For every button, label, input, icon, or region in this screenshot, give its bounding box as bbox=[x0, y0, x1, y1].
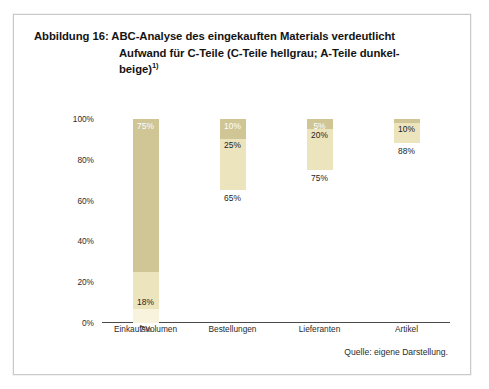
y-axis-tick-label: 80% bbox=[77, 155, 94, 165]
figure-title-line-3: beige)1) bbox=[34, 61, 454, 78]
figure-title-line-2: Aufwand für C-Teile (C-Teile hellgrau; A… bbox=[34, 45, 454, 62]
bar-stack: 75%18%7% bbox=[133, 119, 159, 323]
bar-segment[interactable]: 75% bbox=[133, 119, 159, 272]
bar-segment[interactable]: 10% bbox=[220, 119, 246, 139]
x-axis-category-label: Lieferanten bbox=[299, 324, 341, 334]
figure-frame: Abbildung 16: ABC-Analyse des eingekauft… bbox=[13, 14, 471, 375]
bar-segment-value-label: 75% bbox=[307, 173, 333, 183]
bar-segment[interactable]: 7% bbox=[133, 309, 159, 323]
bar-segment-value-label: 18% bbox=[133, 297, 159, 307]
figure-title-line-1: ABC-Analyse des eingekauften Materials v… bbox=[111, 30, 395, 42]
y-axis-tick-label: 0% bbox=[82, 318, 94, 328]
y-axis-tick-label: 40% bbox=[77, 236, 94, 246]
figure-title-footnote-marker: 1) bbox=[152, 61, 159, 70]
bar-segment-value-label: 10% bbox=[220, 121, 246, 131]
bar-segment-value-label: 25% bbox=[220, 140, 246, 150]
bar-column[interactable]: 75%18%7%Einkaufsvolumen bbox=[102, 119, 189, 323]
figure-label: Abbildung 16: bbox=[34, 30, 109, 42]
y-axis-tick-label: 20% bbox=[77, 277, 94, 287]
x-axis-category-label: Einkaufsvolumen bbox=[114, 324, 177, 334]
figure-title: Abbildung 16: ABC-Analyse des eingekauft… bbox=[34, 28, 454, 78]
figure-title-line-3-text: beige) bbox=[119, 63, 152, 75]
bar-segment[interactable]: 20% bbox=[307, 129, 333, 170]
bar-segment-value-label: 20% bbox=[307, 130, 333, 140]
bar-segment[interactable]: 18% bbox=[133, 272, 159, 309]
bar-segment-value-label: 65% bbox=[220, 193, 246, 203]
bar-segment-value-label: 75% bbox=[133, 121, 159, 131]
bar-column[interactable]: 5%20%75%Lieferanten bbox=[276, 119, 363, 323]
bar-stack: 2%10%88% bbox=[394, 119, 420, 143]
x-axis-category-label: Artikel bbox=[395, 324, 418, 334]
x-axis-category-label: Bestellungen bbox=[209, 324, 257, 334]
bar-segment[interactable]: 10% bbox=[394, 123, 420, 143]
bar-segment-value-label: 10% bbox=[394, 124, 420, 134]
y-axis-tick-label: 100% bbox=[73, 114, 94, 124]
bar-segment-value-label: 88% bbox=[394, 146, 420, 156]
y-axis-tick-label: 60% bbox=[77, 196, 94, 206]
source-note: Quelle: eigene Darstellung. bbox=[344, 347, 448, 357]
bar-segment[interactable]: 25% bbox=[220, 139, 246, 190]
bar-segment[interactable]: 5% bbox=[307, 119, 333, 129]
bar-column[interactable]: 10%25%65%Bestellungen bbox=[189, 119, 276, 323]
bar-stack: 10%25%65% bbox=[220, 119, 246, 190]
bar-stack: 5%20%75% bbox=[307, 119, 333, 170]
bar-column[interactable]: 2%10%88%Artikel bbox=[363, 119, 450, 323]
chart-plot-area: 0%20%40%60%80%100% 75%18%7%Einkaufsvolum… bbox=[102, 119, 462, 323]
